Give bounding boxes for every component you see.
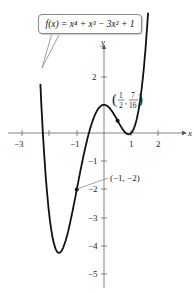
y-tick-label: −3 (88, 213, 98, 223)
graph: −3 −1 1 2 2 −1 −2 −3 −4 −5 x y (−1, −2) … (0, 0, 194, 293)
y-tick-label: −2 (88, 184, 98, 194)
point-label-neg1-neg2: (−1, −2) (110, 173, 140, 183)
y-tick-label: −1 (88, 156, 98, 166)
svg-text:7: 7 (131, 91, 135, 100)
function-equation: f(x) = x⁴ + x³ − 3x² + 1 (46, 19, 135, 29)
y-tick-label: 2 (92, 72, 97, 82)
svg-text:,: , (125, 97, 127, 106)
x-axis-label: x (187, 128, 192, 138)
svg-text:): ) (138, 91, 143, 108)
y-axis-label: y (100, 37, 105, 47)
x-tick-label: 1 (129, 139, 134, 149)
x-tick-label: −1 (70, 139, 80, 149)
x-tick-label: −3 (14, 139, 24, 149)
svg-text:16: 16 (129, 101, 137, 110)
y-tick-label: −5 (88, 269, 98, 279)
svg-text:2: 2 (119, 101, 123, 110)
function-callout: f(x) = x⁴ + x³ − 3x² + 1 (38, 14, 142, 34)
point-half-7-16 (116, 119, 120, 123)
svg-text:(: ( (112, 91, 117, 108)
point-neg1-neg2 (75, 187, 79, 191)
y-tick-label: −4 (88, 241, 98, 251)
callout-pointer (42, 33, 60, 68)
x-tick-label: 2 (156, 139, 161, 149)
svg-text:1: 1 (119, 91, 123, 100)
